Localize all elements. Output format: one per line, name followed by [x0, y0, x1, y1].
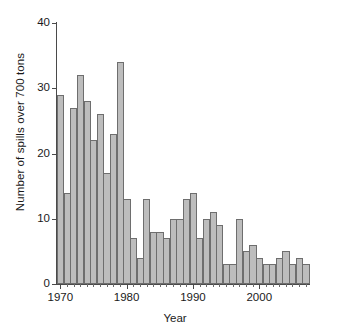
x-axis-minor-tick: [120, 284, 121, 287]
x-axis-minor-tick: [87, 284, 88, 287]
x-axis-minor-tick: [160, 284, 161, 287]
x-axis-minor-tick: [246, 284, 247, 287]
y-axis-tick-label: 20: [37, 148, 50, 160]
x-axis-minor-tick: [206, 284, 207, 287]
x-axis-minor-tick: [133, 284, 134, 287]
x-axis-tick: [60, 284, 61, 289]
x-axis-minor-tick: [273, 284, 274, 287]
x-axis-minor-tick: [93, 284, 94, 287]
x-axis-minor-tick: [299, 284, 300, 287]
x-axis-minor-tick: [173, 284, 174, 287]
x-axis-minor-tick: [233, 284, 234, 287]
x-axis-minor-tick: [306, 284, 307, 287]
x-axis-minor-tick: [279, 284, 280, 287]
x-axis-minor-tick: [219, 284, 220, 287]
x-axis-tick: [259, 284, 260, 289]
plot-area: 0102030401970198019902000: [57, 23, 309, 284]
x-axis-minor-tick: [200, 284, 201, 287]
x-axis-minor-tick: [180, 284, 181, 287]
x-axis-minor-tick: [239, 284, 240, 287]
y-axis-tick-label: 10: [37, 213, 50, 225]
bar: [302, 264, 309, 284]
y-axis-tick: [52, 23, 57, 24]
y-axis-tick: [52, 284, 57, 285]
x-axis-minor-tick: [74, 284, 75, 287]
y-axis-tick-label: 0: [44, 278, 50, 290]
x-axis-minor-tick: [292, 284, 293, 287]
x-axis-minor-tick: [253, 284, 254, 287]
chart-figure: Number of spills over 700 tons 010203040…: [0, 0, 350, 336]
x-axis-minor-tick: [166, 284, 167, 287]
y-axis-tick-label: 30: [37, 83, 50, 95]
x-axis-minor-tick: [67, 284, 68, 287]
x-axis-tick-label: 2000: [246, 292, 272, 304]
x-axis-tick-label: 1980: [114, 292, 140, 304]
x-axis-minor-tick: [147, 284, 148, 287]
x-axis-minor-tick: [226, 284, 227, 287]
x-axis-tick: [193, 284, 194, 289]
x-axis-minor-tick: [140, 284, 141, 287]
x-axis-minor-tick: [286, 284, 287, 287]
y-axis-title: Number of spills over 700 tons: [14, 0, 36, 300]
x-axis-minor-tick: [186, 284, 187, 287]
x-axis-minor-tick: [107, 284, 108, 287]
x-axis-tick: [127, 284, 128, 289]
y-axis-tick-label: 40: [37, 17, 50, 29]
x-axis-tick-label: 1970: [48, 292, 74, 304]
x-axis-minor-tick: [266, 284, 267, 287]
y-axis-tick: [52, 88, 57, 89]
x-axis-minor-tick: [80, 284, 81, 287]
x-axis-minor-tick: [213, 284, 214, 287]
x-axis-title: Year: [0, 312, 350, 324]
x-axis-minor-tick: [113, 284, 114, 287]
x-axis-minor-tick: [153, 284, 154, 287]
x-axis-minor-tick: [100, 284, 101, 287]
x-axis-tick-label: 1990: [180, 292, 206, 304]
